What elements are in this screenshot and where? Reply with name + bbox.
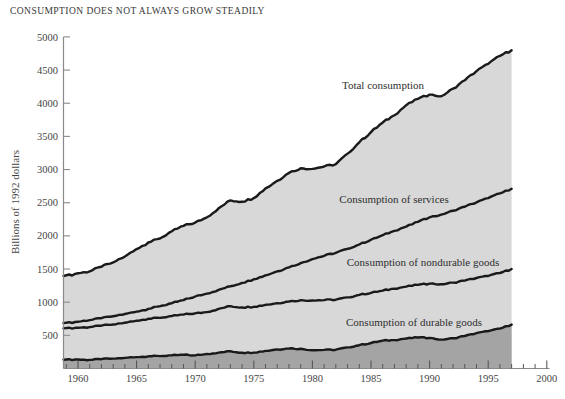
y-tick-label: 5000 bbox=[37, 32, 58, 43]
label-total-consumption: Total consumption bbox=[342, 79, 425, 91]
label-consumption-of-services: Consumption of services bbox=[339, 193, 448, 205]
x-tick-label: 2000 bbox=[536, 373, 557, 384]
x-tick-label: 1960 bbox=[68, 373, 89, 384]
x-tick-label: 1965 bbox=[126, 373, 147, 384]
label-consumption-of-durable-goods: Consumption of durable goods bbox=[346, 316, 482, 328]
y-tick-label: 3000 bbox=[37, 164, 58, 175]
x-tick-label: 1985 bbox=[361, 373, 382, 384]
y-tick-label: 1000 bbox=[37, 297, 58, 308]
x-tick-label: 1970 bbox=[185, 373, 206, 384]
y-axis-title: Billions of 1992 dollars bbox=[9, 150, 21, 254]
figure: CONSUMPTION DOES NOT ALWAYS GROW STEADIL… bbox=[0, 0, 565, 399]
y-tick-label: 2000 bbox=[37, 230, 58, 241]
y-tick-label: 3500 bbox=[37, 131, 58, 142]
x-tick-label: 1995 bbox=[478, 373, 499, 384]
x-tick-label: 1980 bbox=[302, 373, 323, 384]
y-tick-label: 500 bbox=[42, 330, 58, 341]
y-tick-label: 2500 bbox=[37, 197, 58, 208]
x-tick-label: 1990 bbox=[419, 373, 440, 384]
label-consumption-of-nondurable-goods: Consumption of nondurable goods bbox=[347, 256, 499, 268]
y-tick-label: 1500 bbox=[37, 264, 58, 275]
y-tick-label: 4000 bbox=[37, 98, 58, 109]
consumption-area-chart: 5001000150020002500300035004000450050001… bbox=[0, 0, 565, 399]
x-tick-label: 1975 bbox=[243, 373, 264, 384]
y-tick-label: 4500 bbox=[37, 65, 58, 76]
